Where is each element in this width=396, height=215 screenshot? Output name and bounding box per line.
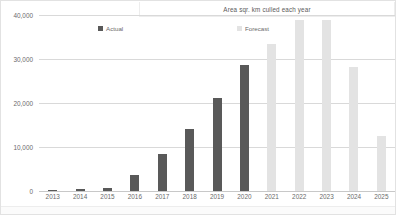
- bar-slot: [149, 15, 176, 191]
- y-axis-tick-label: 40,000: [0, 12, 33, 19]
- bar-slot: [176, 15, 203, 191]
- x-axis-tick-label: 2019: [203, 193, 230, 205]
- y-axis-tick-label: 10,000: [0, 144, 33, 151]
- x-axis-tick-label: 2021: [258, 193, 285, 205]
- bar-forecast-2024[interactable]: [349, 67, 358, 191]
- bar-slot: [94, 15, 121, 191]
- bar-actual-2013[interactable]: [48, 190, 57, 191]
- x-axis-tick-label: 2013: [39, 193, 66, 205]
- bottom-strip: [1, 206, 396, 214]
- bar-forecast-2021[interactable]: [267, 44, 276, 191]
- x-axis-tick-label: 2022: [286, 193, 313, 205]
- bar-actual-2020[interactable]: [240, 65, 249, 191]
- bar-slot: [368, 15, 395, 191]
- x-axis-tick-label: 2014: [66, 193, 93, 205]
- x-axis-tick-label: 2018: [176, 193, 203, 205]
- x-axis-tick-label: 2025: [368, 193, 395, 205]
- chart-container: Area sqr. km culled each year Actual For…: [0, 0, 396, 215]
- bar-forecast-2023[interactable]: [322, 20, 331, 191]
- bar-slot: [231, 15, 258, 191]
- bar-slot: [340, 15, 367, 191]
- bar-actual-2016[interactable]: [130, 175, 139, 191]
- x-axis-tick-label: 2015: [94, 193, 121, 205]
- bar-slot: [313, 15, 340, 191]
- bar-slot: [121, 15, 148, 191]
- gridline: [39, 191, 395, 192]
- x-axis-tick-label: 2020: [231, 193, 258, 205]
- x-axis-tick-label: 2017: [149, 193, 176, 205]
- y-axis-tick-label: 30,000: [0, 56, 33, 63]
- y-axis-tick-label: 20,000: [0, 100, 33, 107]
- page-title: Area sqr. km culled each year: [223, 6, 310, 13]
- bar-actual-2017[interactable]: [158, 154, 167, 191]
- x-axis-tick-label: 2023: [313, 193, 340, 205]
- bar-actual-2018[interactable]: [185, 129, 194, 191]
- x-axis-tick-label: 2024: [340, 193, 367, 205]
- bar-actual-2015[interactable]: [103, 188, 112, 191]
- bar-slot: [203, 15, 230, 191]
- x-axis-tick-label: 2016: [121, 193, 148, 205]
- bar-forecast-2022[interactable]: [295, 20, 304, 191]
- bar-actual-2014[interactable]: [76, 189, 85, 191]
- bar-slot: [66, 15, 93, 191]
- bar-slot: [286, 15, 313, 191]
- bar-forecast-2025[interactable]: [377, 136, 386, 191]
- bar-slot: [258, 15, 285, 191]
- bar-group: [39, 15, 395, 191]
- x-axis: 2013201420152016201720182019202020212022…: [39, 193, 395, 205]
- bar-slot: [39, 15, 66, 191]
- bar-actual-2019[interactable]: [213, 98, 222, 191]
- y-axis-tick-label: 0: [0, 188, 33, 195]
